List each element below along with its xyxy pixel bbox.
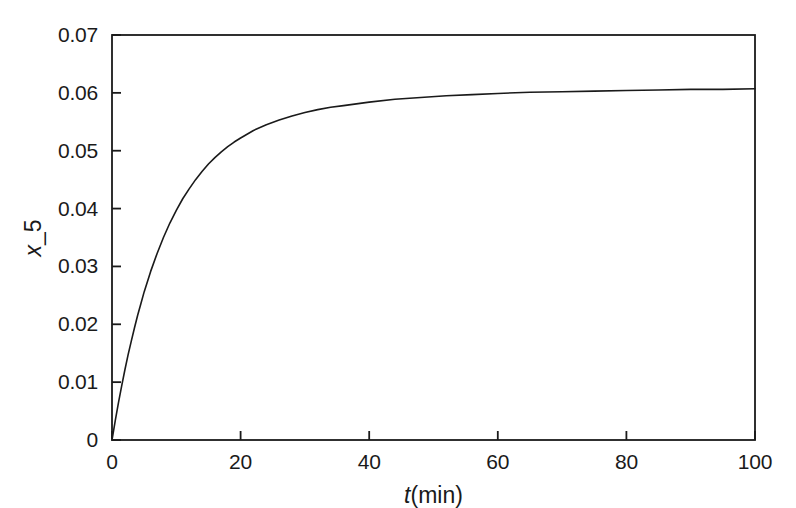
chart-figure: 00.010.020.030.040.050.060.07 0204060801… [0,0,796,508]
plot-frame [112,35,755,440]
y-tick-label: 0.05 [58,139,98,163]
x-tick-label: 80 [615,450,638,474]
x-axis-title: t(min) [404,482,463,508]
x-axis-title-unit: (min) [411,482,463,508]
y-tick-label: 0.06 [58,81,98,105]
y-tick-label: 0.03 [58,254,98,278]
y-tick-label: 0.02 [58,312,98,336]
x-tick-label: 100 [738,450,772,474]
x-tick-label: 60 [486,450,509,474]
y-axis-title-variable: x [20,245,46,257]
y-axis-title: x_5 [20,219,47,256]
y-tick-label: 0.01 [58,370,98,394]
y-tick-label: 0.04 [58,197,98,221]
x-tick-label: 40 [358,450,381,474]
y-tick-label: 0 [87,428,98,452]
plot-area [0,0,796,508]
y-axis-title-subscript: _5 [20,219,46,245]
x-tick-label: 20 [229,450,252,474]
x-tick-label: 0 [106,450,117,474]
y-tick-label: 0.07 [58,23,98,47]
